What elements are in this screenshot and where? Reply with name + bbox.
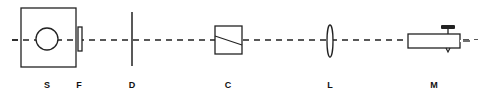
lens-L (327, 25, 333, 57)
label-D: D (129, 80, 136, 90)
optical-bench-svg (0, 0, 483, 98)
label-C: C (225, 80, 232, 90)
optical-diagram: S F D C L M (0, 0, 483, 98)
cell-C (215, 26, 242, 54)
label-M: M (430, 80, 438, 90)
filter-F (78, 27, 82, 51)
label-F: F (76, 80, 82, 90)
label-L: L (327, 80, 333, 90)
label-S: S (44, 80, 50, 90)
source-box-S (12, 8, 76, 67)
microscope-M (408, 25, 478, 52)
